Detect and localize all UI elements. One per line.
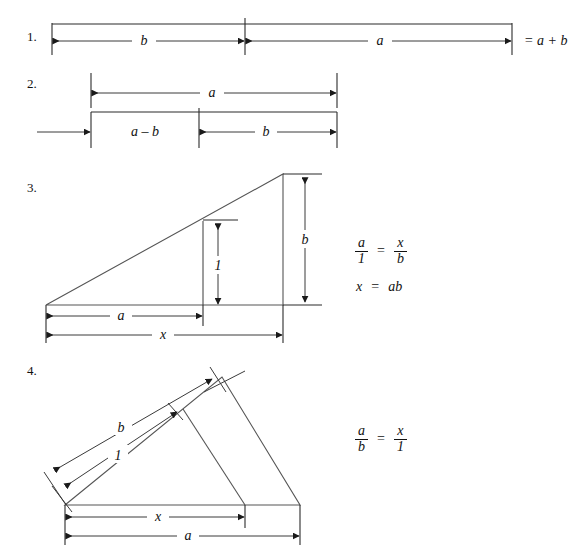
step4-fraction-left: a b [355, 424, 368, 454]
step4-equals-sign: = [372, 431, 390, 447]
step1-label-b: b [141, 33, 148, 48]
diagram-multiplication-triangle: 1 b a x [0, 160, 360, 345]
step1-label-a: a [377, 33, 384, 48]
step4-fraction-right: x 1 [394, 424, 407, 454]
step3-result-rhs: ab [388, 279, 402, 294]
step4-label-one: 1 [115, 448, 122, 463]
diagram-addition-segment: b a [0, 0, 588, 68]
step3-fraction-left: a 1 [355, 236, 368, 266]
step3-label-a: a [118, 308, 125, 323]
figure-page: 1. b a = a + b 2. a [0, 0, 588, 552]
step3-equals-sign: = [372, 243, 390, 259]
step3-label-x: x [159, 327, 167, 342]
step3-equation-result: x = ab [356, 277, 402, 295]
step2-label-a-minus-b: a – b [131, 124, 159, 139]
step4-label-b: b [118, 420, 125, 435]
step3-label-one: 1 [215, 258, 222, 273]
diagram-subtraction-segment: a a – b b [0, 68, 588, 158]
step3-result-lhs: x [356, 279, 362, 294]
step4-label-x: x [154, 509, 162, 524]
step3-result-equals: = [366, 279, 384, 295]
step3-equation-proportion: a 1 = x b [355, 236, 407, 266]
step2-label-a: a [209, 85, 216, 100]
step4-label-a: a [185, 528, 192, 543]
diagram-division-triangle: b 1 x a [0, 360, 360, 550]
step3-label-b: b [302, 232, 309, 247]
step3-fraction-right: x b [394, 236, 407, 266]
step4-equation-proportion: a b = x 1 [355, 424, 407, 454]
step1-result: = a + b [524, 33, 567, 49]
step2-label-b: b [263, 124, 270, 139]
